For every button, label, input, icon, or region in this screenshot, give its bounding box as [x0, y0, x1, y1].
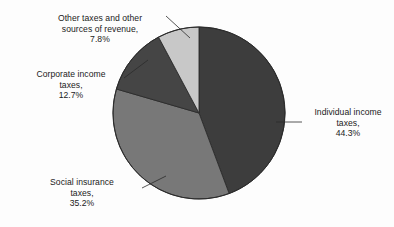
slice-label-corporate-income-taxes: Corporate income taxes, 12.7% — [12, 69, 130, 101]
slice-label-individual-income-taxes: Individual income taxes, 44.3% — [302, 107, 394, 139]
pie-chart-figure: Other taxes and other sources of revenue… — [0, 0, 394, 227]
slice-label-other-taxes: Other taxes and other sources of revenue… — [34, 13, 166, 45]
slice-label-social-insurance-taxes: Social insurance taxes, 35.2% — [22, 177, 142, 209]
